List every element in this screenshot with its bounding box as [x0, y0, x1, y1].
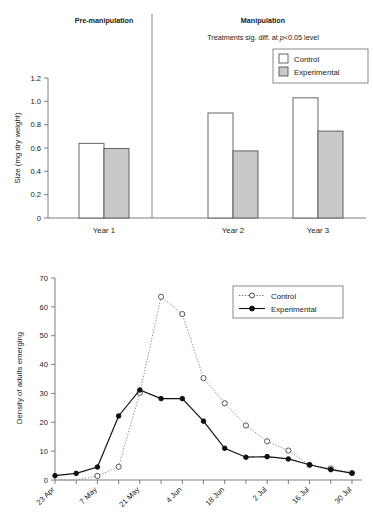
y-tick-label: 0.4 — [30, 167, 41, 176]
panel-a-category-labels: Year 1Year 2Year 3 — [93, 226, 329, 235]
annotation-suffix: <0.05 level — [284, 33, 319, 42]
panel-a-y-axis-label: Size (mg dry weight) — [13, 112, 22, 183]
legend-label-control: Control — [271, 292, 296, 301]
y-tick-label: 0.2 — [30, 190, 41, 199]
data-point-experimental — [201, 419, 206, 424]
data-point-control — [265, 439, 270, 444]
bar-experimental-year-2 — [233, 151, 258, 218]
legend-swatch-control — [279, 54, 288, 63]
panel-b-legend: Control Experimental — [233, 286, 343, 318]
panel-a-legend: Control Experimental — [273, 49, 368, 83]
y-tick-label: 1.0 — [30, 97, 41, 106]
x-tick-label: 2 Jul — [251, 485, 269, 503]
data-point-experimental — [222, 446, 227, 451]
data-point-experimental — [307, 462, 312, 467]
bar-control-year-3 — [293, 98, 318, 218]
data-point-control — [243, 423, 248, 428]
data-point-experimental — [286, 457, 291, 462]
data-point-experimental — [159, 396, 164, 401]
data-point-experimental — [244, 455, 249, 460]
legend-label-experimental: Experimental — [294, 68, 340, 77]
y-tick-label: 60 — [40, 303, 48, 312]
y-tick-label: 30 — [40, 389, 48, 398]
series-line-control — [55, 297, 352, 480]
panel-a-significance-annotation: Treatments sig. diff. at p<0.05 level — [207, 33, 319, 42]
legend-marker-experimental — [250, 306, 255, 311]
y-tick-label: 0.8 — [30, 120, 41, 129]
line-chart-panel: Control Experimental 010203040506070 23 … — [0, 258, 373, 522]
legend-swatch-experimental — [279, 67, 288, 76]
legend-marker-control — [250, 293, 255, 298]
data-point-experimental — [350, 471, 355, 476]
x-tick-label: 7 May — [78, 485, 99, 506]
panel-b-x-tick-labels: 23 Apr7 May21 May4 Jun18 Jun2 Jul16 Jul3… — [35, 485, 354, 509]
legend-label-control: Control — [294, 55, 319, 64]
annotation-prefix: Treatments sig. diff. at — [207, 33, 280, 42]
bar-control-year-1 — [79, 143, 104, 218]
y-tick-label: 0 — [37, 214, 41, 223]
y-tick-label: 70 — [40, 274, 48, 283]
legend-label-experimental: Experimental — [271, 305, 317, 314]
data-point-control — [180, 311, 185, 316]
panel-b-series — [53, 294, 355, 480]
data-point-control — [222, 401, 227, 406]
data-point-control — [201, 376, 206, 381]
y-tick-label: 0.6 — [30, 144, 41, 153]
figure-container: Pre-manipulation Manipulation Treatments… — [0, 0, 373, 522]
panel-a-y-ticks: 00.20.40.60.81.01.2 — [30, 74, 48, 223]
x-tick-label: 4 Jun — [164, 485, 184, 505]
data-point-experimental — [53, 473, 58, 478]
bar-control-year-2 — [208, 113, 233, 218]
y-tick-label: 10 — [40, 447, 48, 456]
panel-b-y-axis-label: Density of adults emerging — [15, 332, 24, 424]
x-tick-label: 21 May — [117, 485, 141, 509]
bar-chart-panel: Pre-manipulation Manipulation Treatments… — [0, 0, 373, 258]
x-tick-label: 23 Apr — [35, 485, 57, 507]
bar-experimental-year-1 — [104, 149, 129, 218]
x-tick-label: 18 Jun — [204, 485, 226, 507]
data-point-experimental — [95, 465, 100, 470]
x-tick-label: 30 Jul — [333, 485, 354, 506]
category-label: Year 1 — [93, 226, 115, 235]
y-tick-label: 40 — [40, 360, 48, 369]
data-point-control — [116, 464, 121, 469]
data-point-experimental — [265, 454, 270, 459]
panel-b-x-ticks — [55, 480, 352, 484]
data-point-control — [286, 448, 291, 453]
bar-experimental-year-3 — [318, 131, 343, 218]
data-point-experimental — [74, 471, 79, 476]
category-label: Year 2 — [222, 226, 244, 235]
data-point-experimental — [138, 388, 143, 393]
data-point-control — [95, 473, 100, 478]
category-label: Year 3 — [307, 226, 329, 235]
panel-a-bars — [79, 98, 343, 218]
data-point-experimental — [180, 396, 185, 401]
data-point-experimental — [116, 414, 121, 419]
panel-a-header-right: Manipulation — [241, 16, 285, 25]
data-point-experimental — [328, 467, 333, 472]
x-tick-label: 16 Jul — [290, 485, 311, 506]
data-point-control — [158, 294, 163, 299]
panel-b-y-ticks: 010203040506070 — [40, 274, 55, 485]
y-tick-label: 20 — [40, 418, 48, 427]
panel-a-header-left: Pre-manipulation — [75, 16, 134, 25]
y-tick-label: 0 — [44, 476, 48, 485]
y-tick-label: 1.2 — [30, 74, 41, 83]
y-tick-label: 50 — [40, 331, 48, 340]
